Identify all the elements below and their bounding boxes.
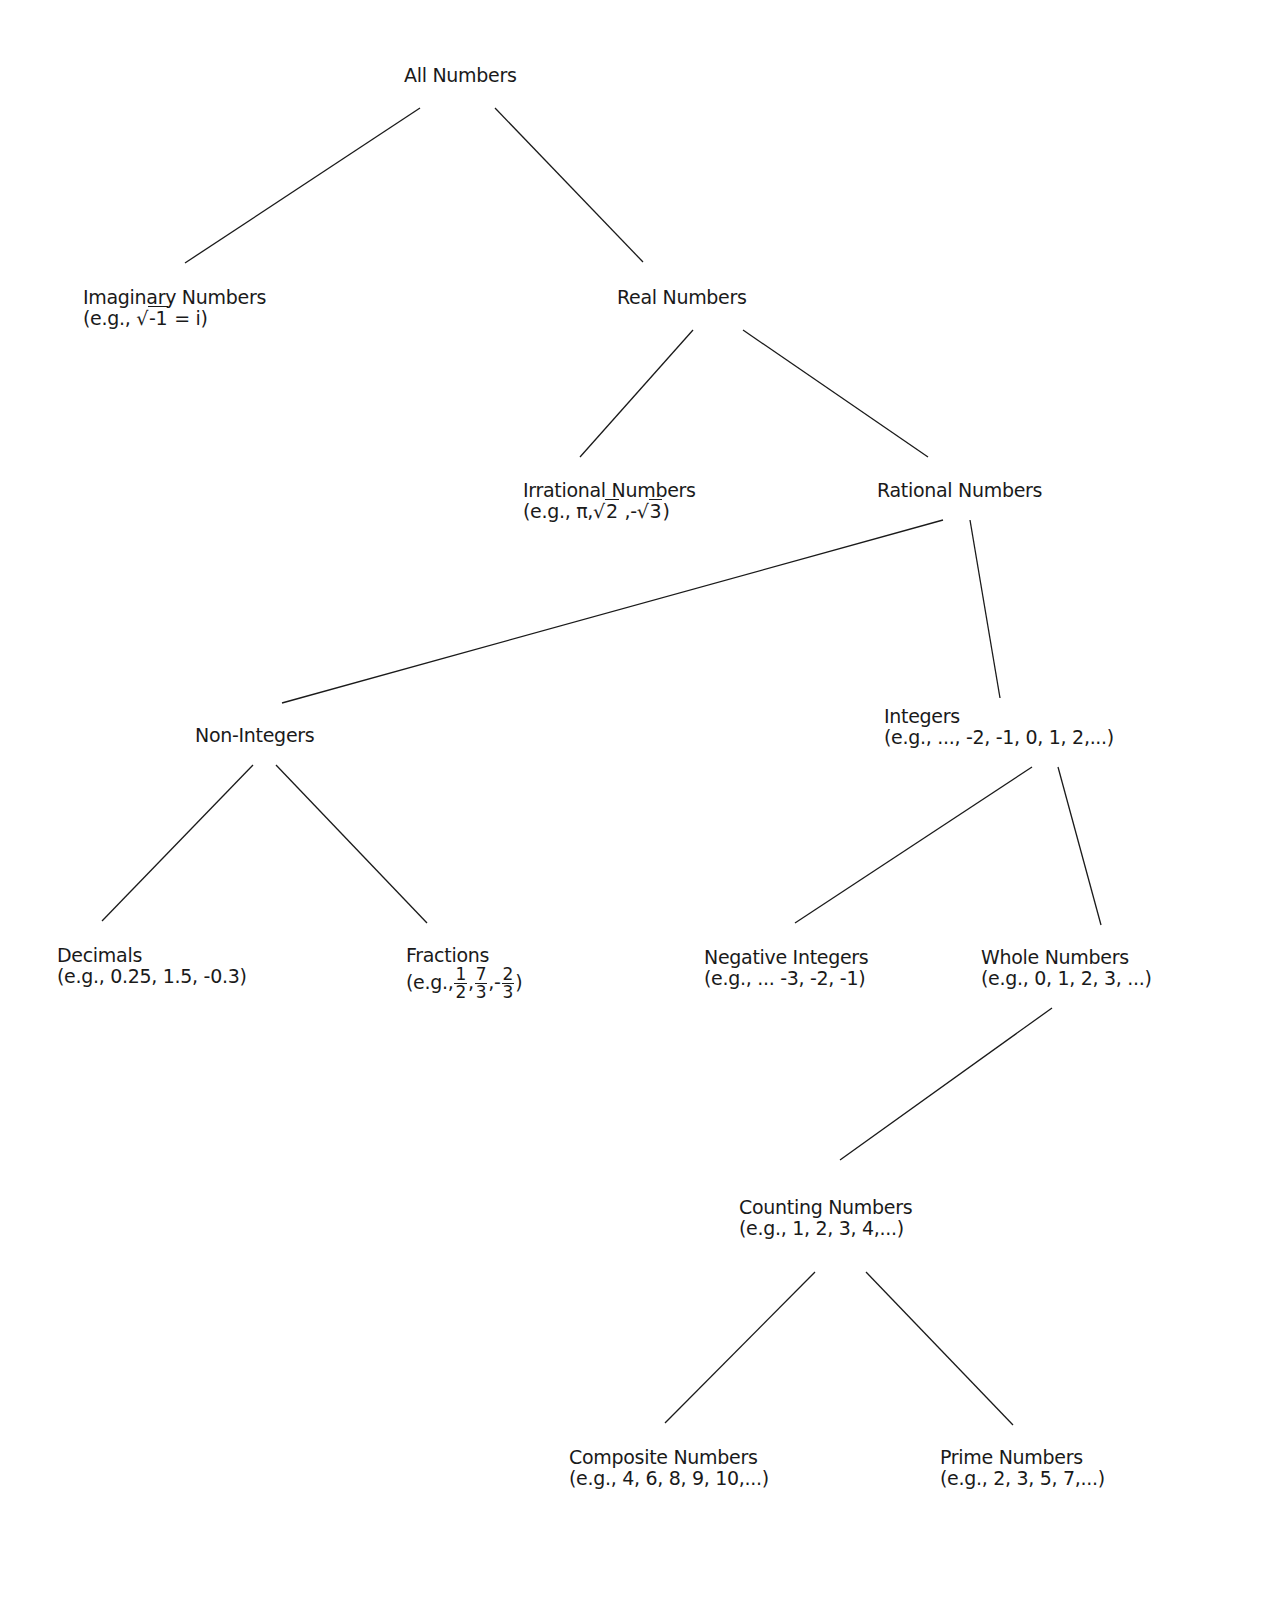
node-label: All Numbers (404, 65, 517, 86)
denominator: 2 (454, 984, 467, 1001)
example-text: ) (515, 971, 522, 993)
node-example: (e.g., 2, 3, 5, 7,...) (940, 1468, 1105, 1489)
node-label: Fractions (406, 945, 522, 966)
edge-integers-negative (795, 767, 1032, 923)
radicand: -1 (148, 306, 168, 329)
node-real-numbers: Real Numbers (617, 287, 747, 308)
edge-rational-integers (970, 520, 1000, 698)
node-label: Negative Integers (704, 947, 868, 968)
edge-rational-noninteger (282, 520, 943, 703)
node-example: (e.g., ..., -2, -1, 0, 1, 2,...) (884, 727, 1114, 748)
node-example: (e.g., 0, 1, 2, 3, ...) (981, 968, 1152, 989)
node-label: Prime Numbers (940, 1447, 1105, 1468)
node-example: (e.g., 1, 2, 3, 4,...) (739, 1218, 912, 1239)
example-text: (e.g., (406, 971, 453, 993)
edge-noninteger-decimals (102, 765, 253, 921)
example-text: ,- (619, 500, 637, 522)
edge-real-rational (743, 330, 928, 457)
number-classification-diagram: All Numbers Imaginary Numbers (e.g., √-1… (0, 0, 1273, 1602)
example-text: , (468, 971, 474, 993)
node-label: Irrational Numbers (523, 480, 696, 501)
radicand: 2 (605, 499, 619, 522)
node-example: (e.g., 0.25, 1.5, -0.3) (57, 966, 247, 987)
node-label: Composite Numbers (569, 1447, 769, 1468)
node-label: Decimals (57, 945, 247, 966)
edge-counting-composite (665, 1272, 815, 1423)
node-label: Rational Numbers (877, 480, 1042, 501)
node-label: Non-Integers (195, 725, 314, 746)
example-text: ) (662, 500, 669, 522)
node-example: (e.g., π,√2 ,-√3) (523, 501, 696, 522)
example-text: (e.g., (83, 307, 136, 329)
example-text: ,- (488, 971, 500, 993)
fraction-one-half: 12 (454, 966, 467, 1001)
node-non-integers: Non-Integers (195, 725, 314, 746)
node-example: (e.g., 4, 6, 8, 9, 10,...) (569, 1468, 769, 1489)
node-label: Whole Numbers (981, 947, 1152, 968)
fraction-seven-thirds: 73 (475, 966, 488, 1001)
node-label: Imaginary Numbers (83, 287, 266, 308)
example-text: = i) (168, 307, 207, 329)
edge-all-real (495, 108, 643, 262)
denominator: 3 (475, 984, 488, 1001)
node-all-numbers: All Numbers (404, 65, 517, 86)
node-irrational-numbers: Irrational Numbers (e.g., π,√2 ,-√3) (523, 480, 696, 522)
edge-all-imaginary (185, 108, 420, 263)
edge-noninteger-fractions (276, 765, 427, 923)
node-label: Real Numbers (617, 287, 747, 308)
square-root-symbol: √-1 (136, 308, 168, 329)
node-label: Counting Numbers (739, 1197, 912, 1218)
node-integers: Integers (e.g., ..., -2, -1, 0, 1, 2,...… (884, 706, 1114, 748)
edge-counting-prime (866, 1272, 1013, 1425)
node-prime-numbers: Prime Numbers (e.g., 2, 3, 5, 7,...) (940, 1447, 1105, 1489)
node-label: Integers (884, 706, 1114, 727)
node-example: (e.g., √-1 = i) (83, 308, 266, 329)
node-decimals: Decimals (e.g., 0.25, 1.5, -0.3) (57, 945, 247, 987)
square-root-symbol: √2 (593, 501, 619, 522)
node-example: (e.g., ... -3, -2, -1) (704, 968, 868, 989)
fraction-two-thirds: 23 (502, 966, 515, 1001)
example-text: (e.g., π, (523, 500, 593, 522)
square-root-symbol: √3 (637, 501, 663, 522)
node-whole-numbers: Whole Numbers (e.g., 0, 1, 2, 3, ...) (981, 947, 1152, 989)
node-imaginary-numbers: Imaginary Numbers (e.g., √-1 = i) (83, 287, 266, 329)
edge-whole-counting (840, 1008, 1052, 1160)
node-rational-numbers: Rational Numbers (877, 480, 1042, 501)
node-example: (e.g.,12,73,-23) (406, 966, 522, 1001)
radicand: 3 (649, 499, 663, 522)
node-fractions: Fractions (e.g.,12,73,-23) (406, 945, 522, 1001)
edge-real-irrational (580, 330, 693, 457)
denominator: 3 (502, 984, 515, 1001)
node-counting-numbers: Counting Numbers (e.g., 1, 2, 3, 4,...) (739, 1197, 912, 1239)
tree-edges (0, 0, 1273, 1602)
node-composite-numbers: Composite Numbers (e.g., 4, 6, 8, 9, 10,… (569, 1447, 769, 1489)
node-negative-integers: Negative Integers (e.g., ... -3, -2, -1) (704, 947, 868, 989)
edge-integers-whole (1058, 767, 1101, 925)
